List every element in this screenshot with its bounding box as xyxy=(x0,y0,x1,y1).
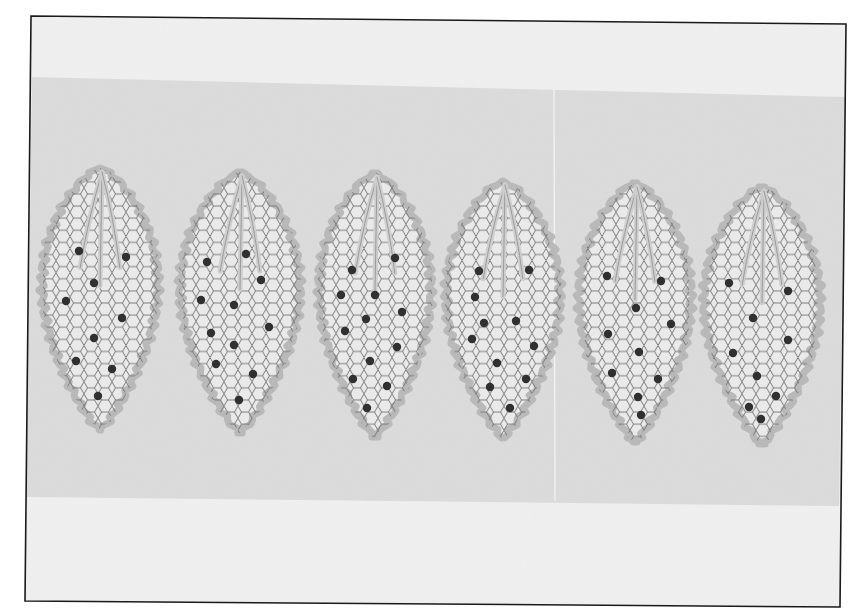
photograph xyxy=(0,0,855,611)
paper-area xyxy=(25,16,846,607)
